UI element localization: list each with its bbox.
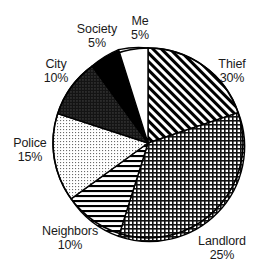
pie-label-landlord-name: Landlord <box>198 234 246 248</box>
pie-label-society-name: Society <box>77 22 117 36</box>
pie-label-thief: Thief 30% <box>218 57 245 85</box>
pie-chart: Thief 30% Landlord 25% Neighbors 10% Pol… <box>0 0 271 278</box>
pie-label-thief-name: Thief <box>218 57 245 71</box>
pie-label-landlord-value: 25% <box>198 248 246 262</box>
pie-label-neighbors-name: Neighbors <box>42 224 98 238</box>
pie-label-me-value: 5% <box>131 28 149 42</box>
pie-label-society-value: 5% <box>77 36 117 50</box>
pie-label-city: City 10% <box>44 57 69 85</box>
pie-label-society: Society 5% <box>77 22 117 50</box>
pie-label-city-value: 10% <box>44 71 69 85</box>
pie-label-me-name: Me <box>131 14 149 28</box>
pie-label-neighbors: Neighbors 10% <box>42 224 98 252</box>
pie-label-thief-value: 30% <box>218 71 245 85</box>
pie-label-me: Me 5% <box>131 14 149 42</box>
pie-label-police-value: 15% <box>13 150 46 164</box>
pie-label-city-name: City <box>44 57 69 71</box>
pie-label-police-name: Police <box>13 136 46 150</box>
pie-label-neighbors-value: 10% <box>42 238 98 252</box>
pie-label-landlord: Landlord 25% <box>198 234 246 262</box>
pie-label-police: Police 15% <box>13 136 46 164</box>
